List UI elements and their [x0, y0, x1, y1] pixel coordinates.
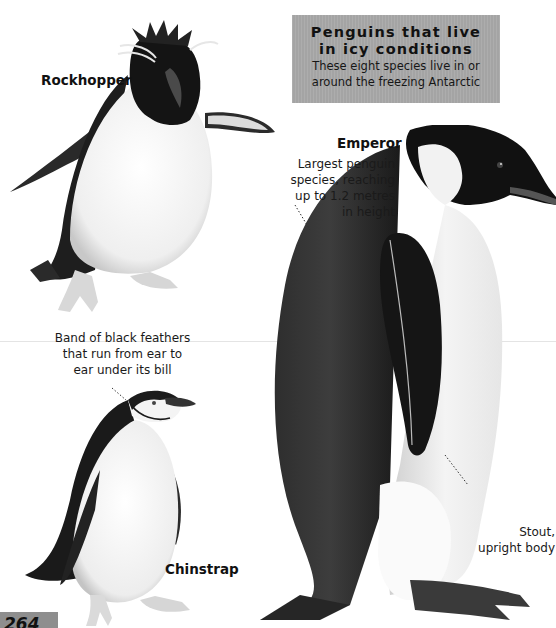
annotation-line: in height — [245, 204, 395, 220]
annotation-line: up to 1.2 metres — [245, 188, 395, 204]
annotation-line: species, reaching — [245, 172, 395, 188]
emperor-label: Emperor — [337, 135, 402, 151]
title-box: Penguins that live in icy conditions The… — [292, 15, 500, 103]
page-number: 264 — [0, 612, 58, 628]
title-line-1: Penguins that live — [292, 24, 500, 41]
subtitle-line-2: around the freezing Antarctic — [292, 75, 500, 90]
annotation-line: upright body — [455, 540, 555, 556]
emperor-size-annotation: Largest penguin species, reaching up to … — [245, 156, 395, 220]
chinstrap-annotation: Band of black feathers that run from ear… — [35, 330, 210, 378]
annotation-line: Largest penguin — [245, 156, 395, 172]
chinstrap-penguin-illustration — [0, 380, 230, 628]
title-line-2: in icy conditions — [292, 41, 500, 58]
chinstrap-label: Chinstrap — [165, 561, 239, 577]
annotation-line: Band of black feathers — [35, 330, 210, 346]
annotation-line: Stout, — [455, 524, 555, 540]
subtitle-line-1: These eight species live in or — [292, 59, 500, 74]
emperor-body-annotation: Stout, upright body — [455, 524, 555, 556]
rockhopper-label: Rockhopper — [41, 72, 132, 88]
annotation-line: that run from ear to — [35, 346, 210, 362]
annotation-line: ear under its bill — [35, 362, 210, 378]
